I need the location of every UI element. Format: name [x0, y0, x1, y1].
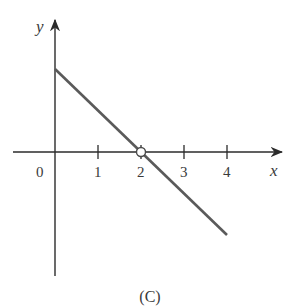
origin-label: 0: [36, 164, 44, 180]
tick-label-4: 4: [223, 164, 231, 180]
tick-label-1: 1: [94, 164, 102, 180]
y-axis-label: y: [34, 17, 44, 36]
x-axis-label: x: [269, 161, 278, 180]
graph-figure: y x 0 1 2 3 4 (C): [0, 0, 303, 306]
tick-label-2: 2: [137, 164, 145, 180]
tick-label-3: 3: [180, 164, 188, 180]
open-circle-marker: [137, 148, 146, 157]
figure-caption: (C): [139, 288, 160, 306]
